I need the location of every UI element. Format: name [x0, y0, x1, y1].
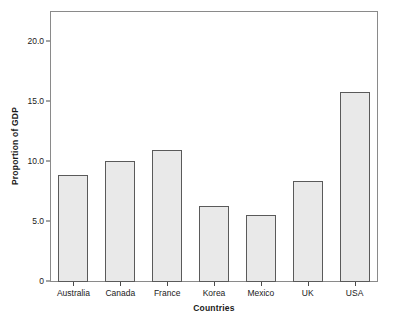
y-axis-tick-mark: [46, 101, 50, 102]
x-axis-tick-mark: [355, 282, 356, 286]
y-axis-tick-label: 15.0: [27, 96, 44, 106]
x-axis-tick-mark: [261, 282, 262, 286]
y-axis-tick-labels: 05.010.015.020.0: [0, 0, 44, 326]
y-axis-tick-mark: [46, 281, 50, 282]
y-axis-tick-label: 10.0: [27, 156, 44, 166]
x-axis-tick-label: UK: [302, 288, 314, 298]
x-axis-tick-mark: [73, 282, 74, 286]
bar: [58, 175, 88, 282]
y-axis-tick-mark: [46, 41, 50, 42]
x-axis-tick-mark: [308, 282, 309, 286]
x-axis-tick-label: Mexico: [247, 288, 274, 298]
x-axis-tick-mark: [120, 282, 121, 286]
x-axis-tick-mark: [167, 282, 168, 286]
bar: [293, 181, 323, 282]
x-axis-tick-label: Australia: [57, 288, 90, 298]
bar: [152, 150, 182, 282]
bar: [199, 206, 229, 282]
bar: [340, 92, 370, 282]
x-axis-tick-label: France: [154, 288, 180, 298]
y-axis-tick-label: 20.0: [27, 36, 44, 46]
bar: [105, 161, 135, 282]
bar-chart-figure: Proportion of GDP 05.010.015.020.0 Count…: [0, 0, 393, 326]
x-axis-tick-mark: [214, 282, 215, 286]
x-axis-tick-label: Canada: [105, 288, 135, 298]
y-axis-tick-label: 5.0: [32, 216, 44, 226]
y-axis-tick-mark: [46, 221, 50, 222]
y-axis-tick-label: 0: [39, 276, 44, 286]
bar: [246, 215, 276, 282]
x-axis-tick-label: USA: [346, 288, 363, 298]
plot-area: [50, 11, 378, 282]
x-axis-tick-label: Korea: [203, 288, 226, 298]
x-axis-title: Countries: [50, 303, 378, 313]
y-axis-tick-mark: [46, 161, 50, 162]
